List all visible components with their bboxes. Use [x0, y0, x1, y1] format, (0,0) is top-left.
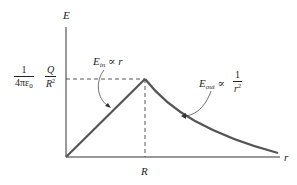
inside-proportional: ∝	[108, 55, 115, 67]
inside-subscript: in	[100, 61, 105, 69]
outside-rhs-denominator: r2	[233, 81, 242, 94]
inside-field-curve	[66, 79, 145, 157]
charge-denominator: R2	[45, 76, 56, 89]
outside-field-annotation: Eout ∝	[199, 78, 225, 91]
inside-field-annotation: Ein ∝ r	[93, 56, 122, 69]
x-axis-label: r	[284, 152, 288, 163]
outside-annotation-arrow	[185, 91, 211, 116]
inside-rhs: r	[118, 55, 122, 67]
outside-rhs-den-sup: 2	[238, 83, 241, 89]
radius-tick-label: R	[141, 166, 148, 177]
outside-rhs-numerator: 1	[234, 70, 241, 81]
outside-rhs-fraction: 1 r2	[233, 70, 242, 94]
charge-numerator: Q	[46, 65, 55, 76]
inside-annotation-arrow	[98, 70, 108, 106]
coefficient-den-base: 4πε	[15, 77, 29, 88]
coefficient-denominator: 4πε0	[14, 76, 34, 90]
outside-subscript: out	[206, 83, 215, 91]
inside-symbol: E	[93, 55, 100, 67]
field-diagram	[0, 0, 297, 185]
coefficient-fraction: 1 4πε0	[14, 65, 34, 90]
coefficient-den-sub: 0	[29, 82, 33, 90]
outside-proportional: ∝	[217, 77, 224, 89]
inside-arrowhead-icon	[105, 103, 111, 108]
charge-den-sup: 2	[52, 78, 55, 84]
y-axis-label: E	[63, 10, 70, 21]
coefficient-numerator: 1	[20, 65, 27, 76]
outside-symbol: E	[199, 77, 206, 89]
charge-fraction: Q R2	[45, 65, 56, 89]
